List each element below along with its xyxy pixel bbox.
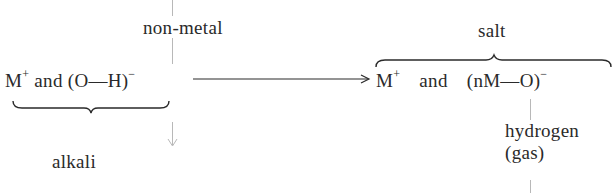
reaction-arrow-icon — [193, 75, 369, 83]
alkali-label: alkali — [52, 151, 96, 173]
product-conjunction: and — [419, 70, 447, 91]
reactant-metal-charge: + — [22, 67, 29, 81]
product-metal-ion: M — [376, 70, 393, 91]
salt-label: salt — [478, 20, 506, 42]
hydrogen-label: hydrogen — [505, 120, 579, 142]
product-anion: (nM—O) — [467, 70, 541, 91]
salt-overbrace — [376, 55, 611, 67]
product-anion-charge: − — [540, 67, 547, 81]
reactant-formula: M+ and (O—H)− — [5, 70, 135, 92]
gas-label: (gas) — [505, 142, 544, 164]
reactant-anion: (O—H) — [68, 70, 129, 91]
down-arrow-icon — [168, 122, 177, 146]
non-metal-label: non-metal — [143, 17, 223, 39]
product-formula: M+ and (nM—O)− — [376, 70, 547, 92]
reactant-metal-ion: M — [5, 70, 22, 91]
reactant-conjunction: and — [34, 70, 62, 91]
alkali-underbrace — [13, 101, 169, 113]
reactant-anion-charge: − — [128, 67, 135, 81]
product-metal-charge: + — [393, 67, 400, 81]
